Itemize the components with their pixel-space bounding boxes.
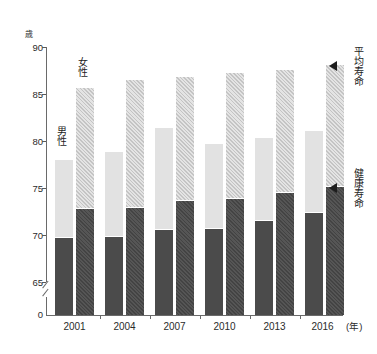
y-tick-label-70: 70	[21, 231, 43, 241]
x-axis-line	[46, 315, 343, 316]
bar-segment-healthy-male-2016	[305, 213, 323, 315]
y-tick-label-90: 90	[21, 43, 43, 53]
bar-segment-healthy-female-2016	[326, 187, 344, 315]
x-tick-label-2001: 2001	[52, 322, 97, 332]
y-axis-line-lower	[46, 297, 47, 315]
y-axis-unit: 歳	[25, 28, 33, 39]
bar-segment-healthy-male-2013	[255, 221, 273, 315]
y-tick-mark-90	[42, 47, 46, 48]
average-life-arrow-icon	[329, 61, 337, 71]
y-tick-label-85: 85	[21, 90, 43, 100]
y-axis-break	[41, 281, 55, 299]
y-tick-mark-65	[42, 282, 46, 283]
y-tick-label-75: 75	[21, 184, 43, 194]
y-tick-mark-70	[42, 235, 46, 236]
bar-segment-healthy-female-2004	[126, 208, 144, 315]
bar-male-2016	[305, 131, 323, 315]
healthy-life-arrow-icon	[329, 183, 337, 193]
y-tick-mark-75	[42, 188, 46, 189]
bar-segment-divider	[255, 220, 273, 221]
x-tick-label-2010: 2010	[202, 322, 247, 332]
y-tick-mark-85	[42, 94, 46, 95]
bar-female-2004	[126, 80, 144, 315]
bar-male-2010	[205, 144, 223, 315]
bar-segment-healthy-female-2013	[276, 193, 294, 315]
bar-segment-healthy-male-2001	[55, 238, 73, 315]
bar-female-2001	[76, 88, 94, 315]
bar-segment-divider	[105, 236, 123, 237]
bar-segment-divider	[176, 200, 194, 201]
bar-segment-healthy-female-2010	[226, 199, 244, 315]
y-tick-label-0: 0	[21, 310, 43, 320]
bar-female-2007	[176, 77, 194, 315]
bar-female-2013	[276, 70, 294, 315]
x-tick-label-2013: 2013	[252, 322, 297, 332]
bar-segment-divider	[226, 198, 244, 199]
series-label-male: 男性	[55, 126, 65, 146]
x-axis-unit: (年)	[346, 322, 362, 332]
x-tick-label-2007: 2007	[152, 322, 197, 332]
bar-segment-healthy-male-2004	[105, 237, 123, 315]
y-tick-mark-80	[42, 141, 46, 142]
x-tick-mark-2013	[300, 315, 301, 319]
bar-segment-divider	[276, 192, 294, 193]
y-tick-label-80: 80	[21, 137, 43, 147]
y-tick-label-65: 65	[21, 278, 43, 288]
life-expectancy-chart: 歳 90 85 80 75 70 65 0 2001	[0, 0, 377, 354]
x-tick-mark-2010	[250, 315, 251, 319]
bar-female-2010	[226, 73, 244, 315]
bar-male-2013	[255, 138, 273, 315]
x-tick-mark-2007	[200, 315, 201, 319]
bar-male-2001	[55, 160, 73, 315]
series-label-female: 女性	[76, 57, 86, 77]
x-tick-mark-2001	[100, 315, 101, 319]
x-tick-label-2016: 2016	[300, 322, 345, 332]
bar-segment-healthy-female-2007	[176, 201, 194, 315]
bar-male-2007	[155, 128, 173, 315]
bar-segment-divider	[205, 228, 223, 229]
bar-segment-divider	[76, 208, 94, 209]
bar-segment-divider	[126, 207, 144, 208]
x-tick-mark-2004	[150, 315, 151, 319]
bar-segment-healthy-male-2010	[205, 229, 223, 315]
x-tick-label-2004: 2004	[102, 322, 147, 332]
y-axis-line	[46, 47, 47, 282]
bar-segment-healthy-male-2007	[155, 230, 173, 315]
callout-healthy-life: 健康寿命	[352, 168, 363, 208]
bar-segment-divider	[305, 212, 323, 213]
bar-male-2004	[105, 152, 123, 315]
bar-segment-divider	[155, 229, 173, 230]
bar-segment-healthy-female-2001	[76, 209, 94, 315]
callout-average-life: 平均寿命	[352, 46, 363, 86]
bar-segment-divider	[55, 237, 73, 238]
